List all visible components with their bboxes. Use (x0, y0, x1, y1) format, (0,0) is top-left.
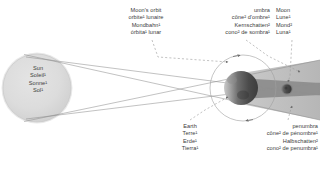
penumbra-label-line-3: Halbschatten² (232, 138, 318, 145)
moon-label-line-4: Luna¹ (276, 29, 316, 36)
earth-label-line-4: Tierra¹ (166, 145, 214, 152)
penumbra-label-line-4: cono² de penumbra¹ (232, 145, 318, 152)
earth-label: Earth Terre¹ Erde¹ Tierra¹ (166, 123, 214, 152)
penumbra-label-line-2: cône² de pénombre¹ (232, 130, 318, 137)
moons-orbit-label-line-2: orbite¹ lunaire (96, 14, 196, 21)
moons-orbit-label-line-1: Moon's orbit (96, 7, 196, 14)
earth-label-line-2: Terre¹ (166, 130, 214, 137)
sun-label-line-1: Sun (10, 65, 66, 72)
penumbra-label: penumbra cône² de pénombre¹ Halbschatten… (232, 123, 318, 152)
moon-label-line-3: Mond² (276, 22, 316, 29)
eclipse-diagram: Sun Soleil¹ Sonne¹ Sol¹ Moon's orbit orb… (0, 0, 320, 176)
moons-orbit-label: Moon's orbit orbite¹ lunaire Mondbahn¹ ó… (96, 7, 196, 36)
moon-label-line-2: Lune¹ (276, 14, 316, 21)
sun-label-line-4: Sol¹ (10, 87, 66, 94)
sun-label-line-2: Soleil¹ (10, 72, 66, 79)
moon-body (281, 83, 292, 94)
earth-label-line-1: Earth (166, 123, 214, 130)
umbra-label-line-1: umbra (196, 7, 270, 14)
umbra-label-line-2: cône² d'ombre¹ (196, 14, 270, 21)
moon-label-line-1: Moon (276, 7, 316, 14)
umbra-label-line-4: cono² de sombra¹ (196, 29, 270, 36)
umbra-label-line-3: Kernschatten² (196, 22, 270, 29)
sun-label: Sun Soleil¹ Sonne¹ Sol¹ (10, 65, 66, 94)
earth-body (224, 71, 258, 105)
moons-orbit-label-line-3: Mondbahn¹ (96, 22, 196, 29)
umbra-label: umbra cône² d'ombre¹ Kernschatten² cono²… (196, 7, 270, 36)
sun-label-line-3: Sonne¹ (10, 80, 66, 87)
moon-label: Moon Lune¹ Mond² Luna¹ (276, 7, 316, 36)
earth-label-line-3: Erde¹ (166, 138, 214, 145)
moons-orbit-label-line-4: órbita¹ lunar (96, 29, 196, 36)
penumbra-label-line-1: penumbra (232, 123, 318, 130)
